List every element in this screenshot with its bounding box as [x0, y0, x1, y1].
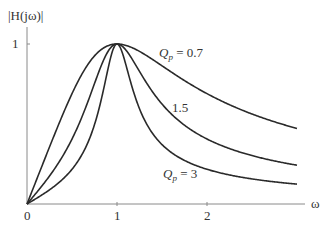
y-tick-label-1: 1 [12, 36, 19, 51]
x-axis-label: ω [311, 196, 320, 211]
x-tick-label-1: 1 [114, 208, 121, 223]
label-qp-0-7: Qp = 0.7 [159, 45, 203, 62]
x-tick-label-0: 0 [24, 208, 31, 223]
label-qp-3: Qp = 3 [163, 166, 197, 183]
bandpass-magnitude-chart: |H(jω)| ω 0 1 2 1 Qp = 0.7 1.5 Qp = 3 [0, 0, 332, 227]
label-qp-1-5: 1.5 [172, 100, 188, 115]
curve-series-2 [27, 44, 297, 204]
curves [27, 44, 297, 204]
x-tick-label-2: 2 [204, 208, 211, 223]
y-axis-label: |H(jω)| [8, 8, 43, 23]
